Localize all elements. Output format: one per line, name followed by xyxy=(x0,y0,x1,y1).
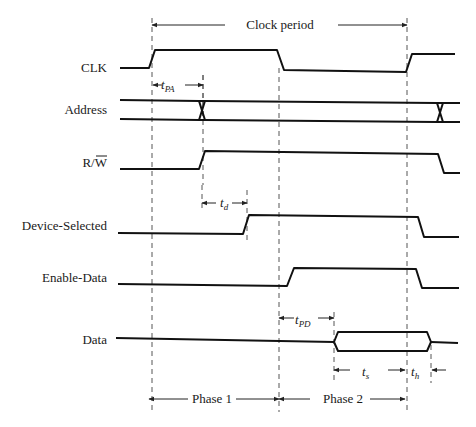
tpd-annotation: tPD xyxy=(279,312,334,329)
bus-top-address xyxy=(120,100,460,103)
phase2-annotation: Phase 2 xyxy=(279,391,405,406)
clock-period-annotation: Clock period xyxy=(152,17,407,32)
td-annotation: td xyxy=(202,195,247,212)
tpa-annotation: tPA xyxy=(153,77,203,94)
data-idle-right xyxy=(431,342,458,343)
ts-annotation: ts xyxy=(334,364,405,381)
signal-address: Address xyxy=(64,100,460,122)
tpa-label: tPA xyxy=(161,77,175,94)
signal-data: Data xyxy=(82,332,458,351)
signal-label-address: Address xyxy=(64,102,107,117)
signal-enable-data: Enable-Data xyxy=(42,268,459,288)
signal-label-data: Data xyxy=(82,332,107,347)
signal-rw: R/W xyxy=(82,151,460,173)
bus-bottom-address xyxy=(120,119,460,122)
clock-period-label: Clock period xyxy=(246,17,314,32)
waveform-enable-data xyxy=(118,268,459,288)
waveform-rw xyxy=(120,151,460,173)
phase1-label: Phase 1 xyxy=(192,391,232,406)
td-label: td xyxy=(220,195,229,212)
signal-waveforms: CLKAddressR/WDevice-SelectedEnable-DataD… xyxy=(22,50,460,351)
timing-diagram: CLKAddressR/WDevice-SelectedEnable-DataD… xyxy=(0,0,476,427)
th-annotation: th xyxy=(411,364,446,381)
phase2-label: Phase 2 xyxy=(323,391,363,406)
ts-label: ts xyxy=(362,364,370,381)
data-idle-left xyxy=(116,338,334,342)
tpd-label: tPD xyxy=(295,312,311,329)
phase1-annotation: Phase 1 xyxy=(149,391,279,406)
signal-label-enable-data: Enable-Data xyxy=(42,270,107,285)
signal-label-device-selected: Device-Selected xyxy=(22,218,108,233)
th-label: th xyxy=(411,364,420,381)
signal-device-selected: Device-Selected xyxy=(22,215,459,237)
signal-label-clk: CLK xyxy=(81,60,108,75)
waveform-device-selected xyxy=(118,215,459,237)
data-valid-window xyxy=(334,332,431,351)
signal-label-rw: R/W xyxy=(82,155,107,170)
signal-clk: CLK xyxy=(81,50,455,75)
waveform-clk xyxy=(120,50,455,72)
timing-annotations: Clock periodtPAtdtPDtsthPhase 1Phase 2 xyxy=(149,17,446,406)
